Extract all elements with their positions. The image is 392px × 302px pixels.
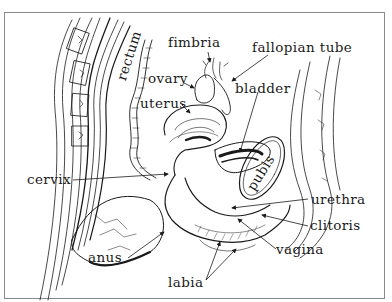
leader-bladder — [240, 92, 258, 152]
uterus-shape — [164, 105, 226, 175]
label-fallopian-tube: fallopian tube — [252, 41, 352, 55]
label-clitoris: clitoris — [310, 219, 361, 233]
leader-labia-2 — [206, 249, 236, 280]
label-labia: labia — [168, 276, 203, 290]
label-bladder: bladder — [235, 82, 291, 96]
ovary-shape — [195, 58, 231, 115]
leader-vagina — [238, 219, 276, 249]
label-uterus: uterus — [140, 97, 187, 111]
leader-urethra — [232, 199, 308, 208]
leader-fallopian-tube — [232, 55, 268, 81]
label-anus: anus — [88, 251, 122, 265]
label-ovary: ovary — [148, 72, 188, 86]
label-cervix: cervix — [27, 173, 71, 187]
label-urethra: urethra — [311, 193, 366, 207]
label-vagina: vagina — [276, 243, 324, 257]
leader-labia-1 — [206, 242, 220, 280]
leader-fimbria — [208, 52, 210, 62]
label-fimbria: fimbria — [168, 36, 220, 50]
